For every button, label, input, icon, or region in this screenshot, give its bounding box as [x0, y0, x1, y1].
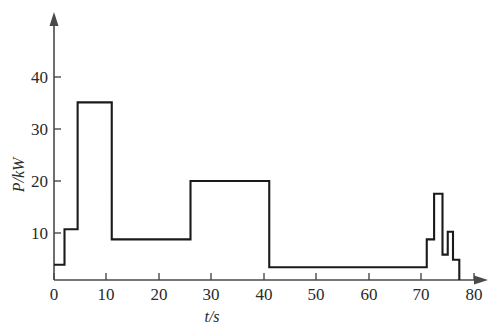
- chart-canvas: 10 20 30 40 0 10 20 30 40 50 60 70: [0, 0, 504, 331]
- y-axis-title: P/kW: [10, 156, 27, 193]
- y-axis-arrow-icon: [50, 12, 59, 26]
- y-axis-tick-labels: 10 20 30 40: [31, 68, 48, 243]
- x-tick-label-60: 60: [361, 285, 378, 304]
- x-axis: [54, 276, 488, 285]
- power-step-curve: [54, 102, 459, 280]
- x-axis-tick-labels: 0 10 20 30 40 50 60 70 80: [50, 285, 483, 304]
- x-axis-title: t/s: [204, 308, 219, 325]
- x-tick-label-0: 0: [50, 285, 59, 304]
- x-tick-label-30: 30: [203, 285, 220, 304]
- x-tick-label-40: 40: [256, 285, 273, 304]
- x-tick-label-20: 20: [151, 285, 168, 304]
- y-axis-ticks: [54, 77, 61, 233]
- x-axis-ticks: [54, 273, 474, 280]
- y-axis: [50, 12, 59, 280]
- power-time-chart: 10 20 30 40 0 10 20 30 40 50 60 70: [0, 0, 504, 331]
- x-tick-label-10: 10: [98, 285, 115, 304]
- y-tick-label-40: 40: [31, 68, 48, 87]
- x-tick-label-50: 50: [308, 285, 325, 304]
- y-tick-label-10: 10: [31, 224, 48, 243]
- x-axis-arrow-icon: [474, 276, 488, 285]
- y-tick-label-30: 30: [31, 120, 48, 139]
- y-tick-label-20: 20: [31, 172, 48, 191]
- x-tick-label-70: 70: [413, 285, 430, 304]
- x-tick-label-80: 80: [466, 285, 483, 304]
